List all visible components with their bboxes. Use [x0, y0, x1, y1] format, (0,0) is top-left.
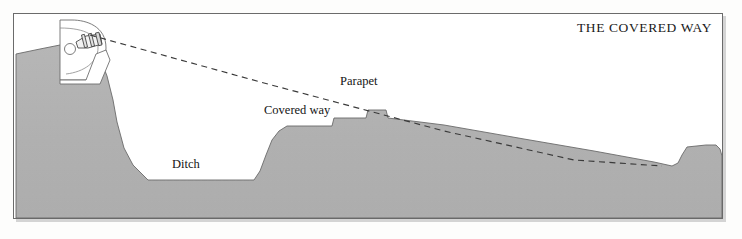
figure-title: THE COVERED WAY — [577, 20, 712, 36]
casemate-structure — [60, 20, 110, 84]
terrain-profile-grain — [16, 44, 722, 218]
cross-section-diagram — [14, 14, 724, 220]
figure-frame: THE COVERED WAY Ditch Covered way Parape… — [13, 13, 723, 219]
label-parapet: Parapet — [340, 74, 377, 89]
embrasure-port-icon — [65, 44, 76, 55]
earthwork-mass — [16, 44, 722, 218]
label-ditch: Ditch — [172, 157, 200, 172]
label-covered-way: Covered way — [264, 103, 330, 118]
figure-page: THE COVERED WAY Ditch Covered way Parape… — [0, 0, 742, 239]
